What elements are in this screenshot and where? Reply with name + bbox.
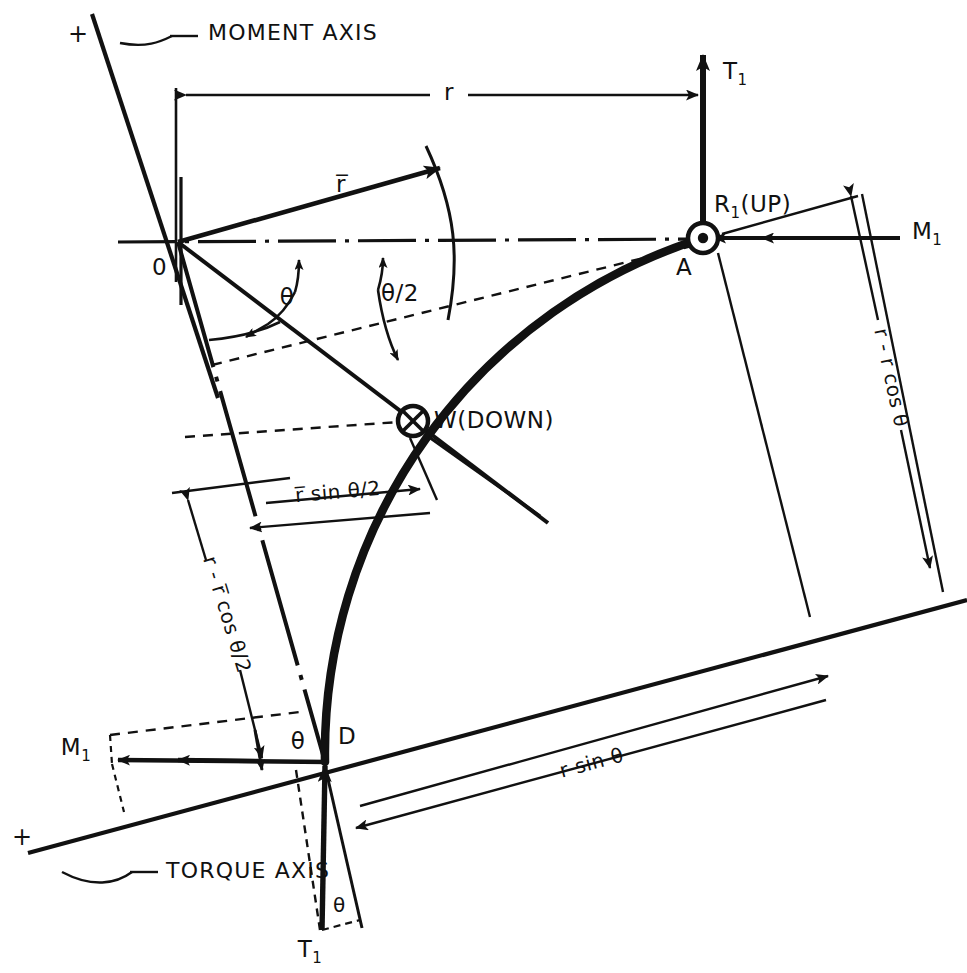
theta-label: θ (280, 284, 295, 310)
torque-axis-label: TORQUE AXIS (165, 858, 330, 883)
engineering-diagram: + MOMENT AXIS + TORQUE AXIS r̅ (0, 0, 967, 973)
theta-at-T1-label: θ (333, 893, 346, 917)
force-out-of-page-dot-A (698, 233, 708, 243)
point-D-label: D (338, 723, 356, 749)
M1-arrow-at-D-head2 (178, 760, 258, 761)
theta-half-label: θ/2 (381, 280, 419, 306)
W-label: W(DOWN) (434, 407, 554, 433)
point-O-label: 0 (152, 254, 167, 280)
T1-arrow-at-D (322, 766, 325, 930)
diagram-canvas: + MOMENT AXIS + TORQUE AXIS r̅ (0, 0, 967, 973)
moment-axis-label: MOMENT AXIS (208, 20, 378, 45)
dim-r-label: r (444, 79, 454, 105)
torque-axis-plus-sign: + (12, 823, 33, 851)
moment-axis-plus-sign: + (68, 20, 89, 48)
point-A-label: A (676, 254, 692, 280)
point-O-group: 0 (152, 254, 167, 280)
theta-at-D-label: θ (291, 728, 306, 754)
canvas-background (0, 0, 967, 973)
